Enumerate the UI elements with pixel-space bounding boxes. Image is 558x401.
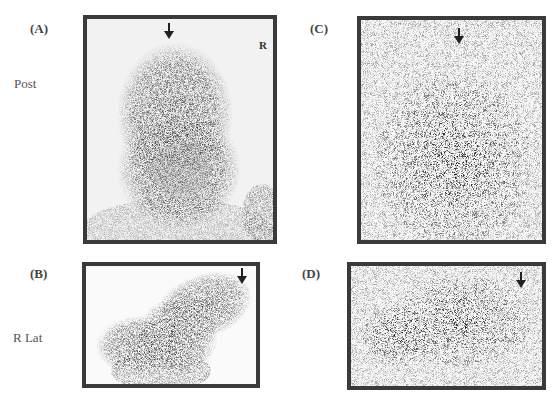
row-label-post: Post	[14, 76, 36, 92]
scan-panel-a: R	[83, 15, 277, 244]
scan-image-b	[86, 266, 256, 384]
row-label-r-lat: R Lat	[13, 330, 42, 346]
panel-label-c: (C)	[310, 21, 328, 37]
panel-label-b: (B)	[30, 266, 47, 282]
scan-image-c	[361, 20, 542, 240]
scan-image-d	[351, 266, 542, 386]
orientation-marker-r: R	[259, 39, 267, 51]
scan-panel-d	[347, 262, 546, 390]
scan-panel-c	[357, 16, 546, 244]
panel-label-d: (D)	[302, 266, 320, 282]
panel-label-a: (A)	[30, 21, 48, 37]
scan-image-a	[87, 19, 273, 240]
scan-panel-b	[82, 262, 260, 388]
